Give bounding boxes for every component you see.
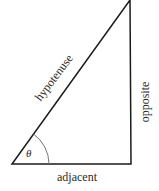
triangle bbox=[12, 0, 131, 164]
hypotenuse-label: hypotenuse bbox=[32, 52, 76, 104]
adjacent-label: adjacent bbox=[57, 170, 98, 184]
angle-theta-label: θ bbox=[26, 147, 32, 159]
angle-arc bbox=[34, 134, 50, 164]
opposite-label: opposite bbox=[138, 82, 152, 123]
right-triangle-diagram: θ adjacent opposite hypotenuse bbox=[0, 0, 159, 191]
